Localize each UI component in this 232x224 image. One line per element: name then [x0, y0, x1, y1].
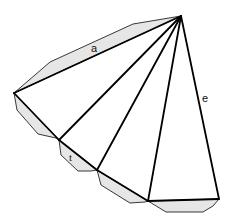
label-t: t — [69, 151, 72, 163]
edge-apex-v5 — [181, 16, 219, 199]
edge-apex-v1 — [14, 16, 181, 93]
label-a: a — [91, 42, 98, 54]
net-svg: a t e — [0, 0, 232, 224]
label-e: e — [202, 92, 208, 104]
pyramid-net-diagram: a t e — [0, 0, 232, 224]
